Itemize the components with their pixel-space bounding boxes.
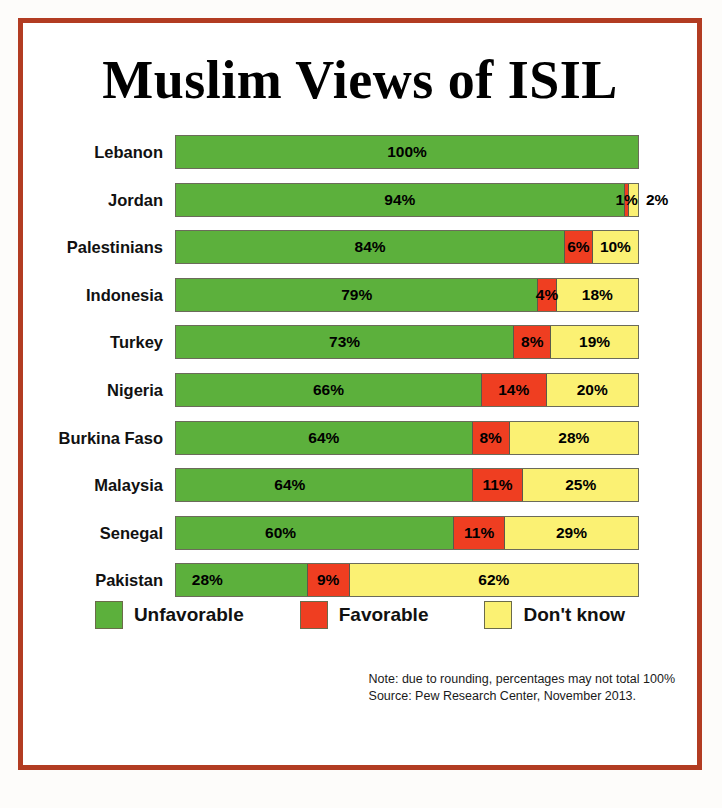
legend-item-unfavorable[interactable]: Unfavorable: [95, 601, 244, 629]
country-label: Jordan: [23, 183, 163, 217]
stacked-bar: 100%: [175, 135, 639, 169]
bar-segment-favorable: 6%: [564, 231, 592, 263]
bar-segment-dont-know: 62%: [349, 564, 638, 596]
segment-value-label: 8%: [521, 333, 543, 351]
stacked-bar: 73%8%19%: [175, 325, 639, 359]
segment-value-label: 28%: [558, 429, 589, 447]
country-label: Pakistan: [23, 563, 163, 597]
bar-segment-favorable: 8%: [472, 422, 509, 454]
chart-frame-border: Muslim Views of ISIL Lebanon100%Jordan94…: [18, 18, 702, 770]
bar-segment-dont-know: 28%: [509, 422, 638, 454]
bar-segment-favorable: 9%: [307, 564, 349, 596]
bar-segment-favorable: 11%: [472, 469, 523, 501]
country-label: Malaysia: [23, 468, 163, 502]
segment-value-label: 84%: [355, 238, 386, 256]
bar-segment-dont-know: 20%: [546, 374, 638, 406]
segment-value-label: 20%: [577, 381, 608, 399]
stacked-bar: 28%9%62%: [175, 563, 639, 597]
segment-value-label: 64%: [274, 476, 305, 494]
segment-value-label: 6%: [567, 238, 589, 256]
bar-row: Turkey73%8%19%: [23, 325, 697, 359]
segment-value-label: 29%: [556, 524, 587, 542]
bar-segment-dont-know: 29%: [504, 517, 638, 549]
bar-row: Malaysia64%11%25%: [23, 468, 697, 502]
stacked-bar: 84%6%10%: [175, 230, 639, 264]
bar-segment-favorable: 14%: [481, 374, 546, 406]
bar-row: Lebanon100%: [23, 135, 697, 169]
bar-segment-dont-know: 25%: [522, 469, 638, 501]
stacked-bar: 64%8%28%: [175, 421, 639, 455]
bar-segment-unfavorable: 79%: [176, 279, 537, 311]
bar-segment-dont-know: 2%: [628, 184, 638, 216]
bar-segment-dont-know: 18%: [556, 279, 638, 311]
country-label: Nigeria: [23, 373, 163, 407]
segment-value-label: 64%: [308, 429, 339, 447]
segment-value-label: 18%: [582, 286, 613, 304]
segment-value-label: 19%: [579, 333, 610, 351]
country-label: Turkey: [23, 325, 163, 359]
footnote-block: Note: due to rounding, percentages may n…: [369, 671, 675, 705]
bar-row: Indonesia79%4%18%: [23, 278, 697, 312]
segment-value-label: 11%: [464, 524, 494, 542]
legend-swatch-icon: [484, 601, 512, 629]
segment-value-label: 62%: [478, 571, 509, 589]
legend-label: Don't know: [523, 604, 625, 626]
legend-label: Favorable: [339, 604, 429, 626]
stacked-bar: 60%11%29%: [175, 516, 639, 550]
country-label: Indonesia: [23, 278, 163, 312]
country-label: Burkina Faso: [23, 421, 163, 455]
segment-value-label: 94%: [384, 191, 415, 209]
bar-row: Burkina Faso64%8%28%: [23, 421, 697, 455]
segment-value-label: 60%: [265, 524, 296, 542]
bar-segment-unfavorable: 94%: [176, 184, 624, 216]
segment-value-label: 25%: [565, 476, 596, 494]
country-label: Lebanon: [23, 135, 163, 169]
legend-item-dont-know[interactable]: Don't know: [484, 601, 625, 629]
country-label: Palestinians: [23, 230, 163, 264]
legend-item-favorable[interactable]: Favorable: [300, 601, 429, 629]
legend-swatch-icon: [300, 601, 328, 629]
footnote-source: Source: Pew Research Center, November 20…: [369, 688, 675, 705]
segment-value-label: 10%: [600, 238, 631, 256]
legend-swatch-icon: [95, 601, 123, 629]
segment-value-label: 79%: [341, 286, 372, 304]
bar-segment-dont-know: 19%: [550, 326, 638, 358]
segment-value-label: 11%: [482, 476, 512, 494]
bar-segment-unfavorable: 73%: [176, 326, 513, 358]
bar-row: Pakistan28%9%62%: [23, 563, 697, 597]
bar-segment-unfavorable: 64%: [176, 469, 472, 501]
bar-segment-unfavorable: 60%: [176, 517, 453, 549]
bar-row: Palestinians84%6%10%: [23, 230, 697, 264]
segment-value-label: 9%: [317, 571, 339, 589]
segment-value-label: 14%: [498, 381, 529, 399]
stacked-bar: 94%1%2%: [175, 183, 639, 217]
stacked-bar: 79%4%18%: [175, 278, 639, 312]
legend-label: Unfavorable: [134, 604, 244, 626]
infographic-root: Muslim Views of ISIL Lebanon100%Jordan94…: [0, 0, 722, 808]
segment-value-label: 100%: [387, 143, 427, 161]
bar-row: Senegal60%11%29%: [23, 516, 697, 550]
bar-segment-unfavorable: 100%: [176, 136, 638, 168]
segment-value-label: 66%: [313, 381, 344, 399]
stacked-bar-chart: Lebanon100%Jordan94%1%2%Palestinians84%6…: [23, 135, 697, 575]
footnote-note: Note: due to rounding, percentages may n…: [369, 671, 675, 688]
bar-segment-unfavorable: 28%: [176, 564, 307, 596]
bar-segment-unfavorable: 66%: [176, 374, 481, 406]
bar-segment-unfavorable: 84%: [176, 231, 564, 263]
chart-legend: UnfavorableFavorableDon't know: [23, 601, 697, 629]
segment-value-label: 73%: [329, 333, 360, 351]
segment-value-label: 8%: [479, 429, 501, 447]
bar-segment-dont-know: 10%: [592, 231, 638, 263]
bar-segment-unfavorable: 64%: [176, 422, 472, 454]
segment-value-label: 2%: [646, 191, 668, 209]
bar-segment-favorable: 8%: [513, 326, 550, 358]
country-label: Senegal: [23, 516, 163, 550]
stacked-bar: 64%11%25%: [175, 468, 639, 502]
bar-segment-favorable: 11%: [453, 517, 504, 549]
bar-row: Jordan94%1%2%: [23, 183, 697, 217]
page-title: Muslim Views of ISIL: [23, 51, 697, 109]
segment-value-label: 28%: [192, 571, 223, 589]
bar-row: Nigeria66%14%20%: [23, 373, 697, 407]
stacked-bar: 66%14%20%: [175, 373, 639, 407]
bar-segment-favorable: 4%: [537, 279, 555, 311]
